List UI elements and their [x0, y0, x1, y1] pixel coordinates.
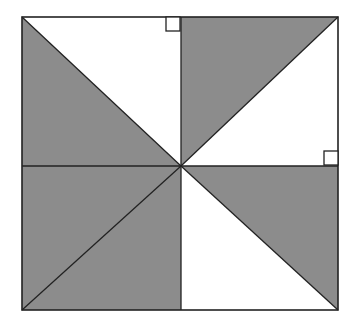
right-angle-top-marker [166, 17, 180, 31]
geometry-diagram [0, 0, 359, 329]
right-angle-right-marker [324, 151, 338, 165]
